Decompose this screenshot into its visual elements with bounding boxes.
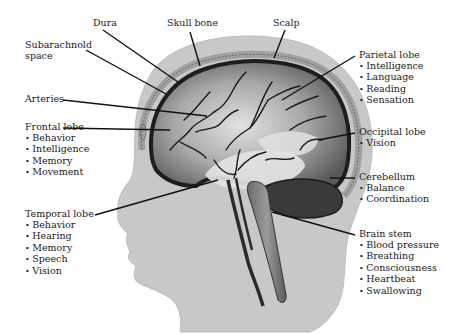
label-scalp-title: Scalp <box>273 18 300 29</box>
label-subarachnoid-space: Subarachnold space <box>25 40 92 61</box>
occipital-item: Vision <box>359 138 426 150</box>
brain-stem-item: Swallowing <box>359 286 439 298</box>
label-arteries-title: Arteries <box>25 94 64 105</box>
label-dura-title: Dura <box>93 18 117 29</box>
temporal-item: Vision <box>25 266 94 278</box>
label-parietal-title: Parietal lobe <box>359 50 423 61</box>
label-cerebellum: Cerebellum Balance Coordination <box>359 172 429 206</box>
label-subarachnoid-line2: space <box>25 51 92 62</box>
label-scalp: Scalp <box>273 18 300 29</box>
label-cerebellum-title: Cerebellum <box>359 172 429 183</box>
label-parietal-lobe: Parietal lobe Intelligence Language Read… <box>359 50 423 107</box>
label-occipital-title: Occipital lobe <box>359 127 426 138</box>
label-subarachnoid-line1: Subarachnold <box>25 40 92 51</box>
label-dura: Dura <box>93 18 117 29</box>
label-brain-stem-title: Brain stem <box>359 229 439 240</box>
label-skull-bone: Skull bone <box>167 18 218 29</box>
label-skull-bone-title: Skull bone <box>167 18 218 29</box>
label-temporal-lobe: Temporal lobe Behavior Hearing Memory Sp… <box>25 209 94 278</box>
parietal-item: Sensation <box>359 95 423 107</box>
label-brain-stem: Brain stem Blood pressure Breathing Cons… <box>359 229 439 298</box>
frontal-item: Movement <box>25 167 89 179</box>
label-frontal-lobe: Frontal lobe Behavior Intelligence Memor… <box>25 122 89 179</box>
label-temporal-title: Temporal lobe <box>25 209 94 220</box>
label-arteries: Arteries <box>25 94 64 105</box>
cerebellum-item: Coordination <box>359 194 429 206</box>
label-frontal-title: Frontal lobe <box>25 122 89 133</box>
label-occipital-lobe: Occipital lobe Vision <box>359 127 426 149</box>
